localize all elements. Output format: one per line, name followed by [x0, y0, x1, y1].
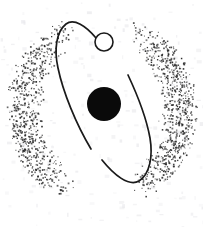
- stipple-dot: [159, 66, 160, 67]
- stipple-dot: [60, 162, 61, 163]
- stipple-dot: [176, 88, 177, 89]
- stipple-dot: [38, 55, 39, 56]
- stipple-dot: [177, 101, 178, 102]
- stipple-dot: [169, 47, 170, 48]
- stipple-dot: [181, 115, 182, 116]
- stipple-dot: [33, 126, 35, 128]
- scan-noise-dot: [89, 41, 93, 45]
- stipple-dot: [20, 138, 21, 139]
- scan-noise-dot: [144, 128, 146, 131]
- stipple-dot: [10, 90, 11, 91]
- stipple-dot: [191, 120, 192, 121]
- stipple-dot: [49, 168, 51, 170]
- stipple-dot: [58, 41, 60, 43]
- stipple-dot: [171, 100, 172, 101]
- stipple-dot: [150, 64, 152, 66]
- stipple-dot: [164, 96, 165, 97]
- stipple-dot: [41, 44, 43, 46]
- stipple-dot: [151, 59, 153, 61]
- scan-noise-dot: [132, 69, 135, 72]
- stipple-dot: [169, 121, 171, 123]
- stipple-dot: [32, 53, 33, 54]
- stipple-dot: [16, 78, 17, 79]
- stipple-dot: [178, 166, 180, 168]
- stipple-dot: [142, 49, 143, 50]
- stipple-dot: [49, 48, 50, 49]
- scan-noise-dot: [159, 214, 163, 215]
- stipple-dot: [166, 106, 167, 107]
- stipple-dot: [21, 113, 22, 114]
- stipple-dot: [165, 129, 167, 131]
- stipple-dot: [166, 77, 168, 79]
- stipple-dot: [45, 177, 46, 178]
- stipple-dot: [22, 105, 23, 106]
- stipple-dot: [31, 71, 32, 72]
- stipple-dot: [156, 179, 158, 181]
- stipple-dot: [168, 68, 169, 69]
- stipple-dot: [21, 93, 22, 94]
- stipple-dot: [48, 39, 49, 40]
- scan-noise-dot: [91, 55, 94, 59]
- stipple-dot: [36, 53, 37, 54]
- stipple-dot: [36, 48, 38, 50]
- stipple-dot: [150, 44, 151, 45]
- stipple-dot: [164, 180, 165, 181]
- stipple-dot: [28, 91, 29, 92]
- stipple-dot: [44, 56, 46, 58]
- stipple-dot: [153, 183, 154, 184]
- stipple-dot: [30, 143, 31, 144]
- stipple-dot: [46, 51, 47, 52]
- stipple-dot: [24, 104, 26, 106]
- stipple-dot: [176, 85, 177, 86]
- stipple-dot: [175, 141, 177, 143]
- stipple-dot: [172, 81, 173, 82]
- stipple-dot: [176, 67, 178, 69]
- stipple-dot: [192, 98, 194, 100]
- stipple-dot: [20, 104, 22, 106]
- stipple-dot: [19, 149, 20, 150]
- stipple-dot: [17, 108, 19, 110]
- scan-noise-dot: [81, 2, 82, 4]
- stipple-dot: [21, 80, 22, 81]
- stipple-dot: [30, 72, 31, 73]
- stipple-dot: [171, 140, 173, 142]
- stipple-dot: [167, 179, 168, 180]
- scan-noise-dot: [196, 100, 201, 101]
- scan-noise-dot: [200, 122, 203, 126]
- scan-noise-dot: [48, 212, 50, 215]
- stipple-dot: [30, 155, 31, 156]
- stipple-dot: [22, 139, 24, 141]
- stipple-dot: [15, 110, 17, 112]
- stipple-dot: [13, 119, 14, 120]
- stipple-dot: [29, 151, 30, 152]
- stipple-dot: [183, 95, 184, 96]
- stipple-dot: [191, 127, 193, 129]
- scan-noise-dot: [75, 45, 76, 49]
- stipple-dot: [173, 74, 174, 75]
- stipple-dot: [25, 167, 26, 168]
- stipple-dot: [192, 126, 193, 127]
- scan-noise-dot: [29, 65, 31, 67]
- stipple-dot: [21, 65, 22, 66]
- stipple-dot: [146, 159, 147, 160]
- stipple-dot: [179, 120, 181, 122]
- stipple-dot: [159, 180, 161, 182]
- stipple-dot: [142, 182, 144, 184]
- stipple-dot: [168, 92, 169, 93]
- stipple-dot: [15, 88, 16, 89]
- stipple-dot: [34, 172, 36, 174]
- stipple-dot: [173, 48, 174, 49]
- stipple-dot: [165, 65, 166, 66]
- stipple-dot: [161, 143, 162, 144]
- scan-noise-dot: [126, 19, 128, 21]
- scan-noise-dot: [124, 90, 127, 91]
- stipple-dot: [148, 188, 150, 190]
- stipple-dot: [160, 161, 162, 163]
- stipple-dot: [183, 77, 184, 78]
- stipple-dot: [36, 67, 37, 68]
- stipple-dot: [17, 104, 18, 105]
- stipple-dot: [170, 138, 172, 140]
- stipple-dot: [190, 87, 192, 89]
- scan-noise-dot: [12, 161, 16, 164]
- scan-noise-dot: [154, 143, 156, 145]
